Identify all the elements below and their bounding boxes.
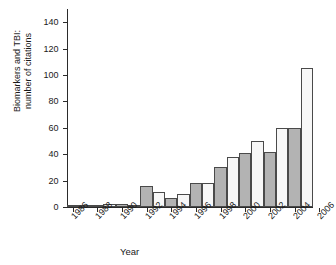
bar-2002 [264, 152, 276, 207]
y-axis-tick [63, 75, 67, 76]
x-axis-tick-label: 1990 [118, 200, 139, 221]
bar-2001 [251, 141, 263, 207]
y-axis-tick-label: 40 [33, 149, 59, 159]
bar-2004 [288, 128, 300, 207]
bar-2000 [239, 153, 251, 207]
y-axis-tick [63, 22, 67, 23]
y-axis-tick [63, 181, 67, 182]
y-axis-title-line1: Biomarkers and TBI: [12, 30, 22, 112]
y-axis-title: Biomarkers and TBI:number of citations [12, 0, 34, 146]
bar-1992 [140, 186, 152, 207]
y-axis-tick-label: 140 [33, 17, 59, 27]
y-axis-tick [63, 101, 67, 102]
bar-2003 [276, 128, 288, 207]
x-axis-title: Year [120, 246, 139, 257]
y-axis-title-line2: number of citations [23, 33, 33, 109]
y-axis-tick [63, 154, 67, 155]
x-axis-tick-label: 1988 [93, 200, 114, 221]
y-axis-tick [63, 207, 67, 208]
y-axis-tick [63, 128, 67, 129]
y-axis-tick-label: 80 [33, 96, 59, 106]
bar-1999 [227, 157, 239, 207]
x-axis-tick-label: 1986 [69, 200, 90, 221]
y-axis-tick-label: 0 [33, 202, 59, 212]
y-axis-tick-label: 100 [33, 70, 59, 80]
y-axis-line [67, 9, 68, 207]
y-axis-tick-label: 120 [33, 44, 59, 54]
bar-2005 [301, 68, 313, 207]
x-axis-tick-label: 2006 [315, 200, 336, 221]
bar-1998 [214, 167, 226, 207]
y-axis-tick [63, 49, 67, 50]
y-axis-tick-label: 60 [33, 123, 59, 133]
bar-1996 [190, 183, 202, 207]
y-axis-tick-label: 20 [33, 176, 59, 186]
